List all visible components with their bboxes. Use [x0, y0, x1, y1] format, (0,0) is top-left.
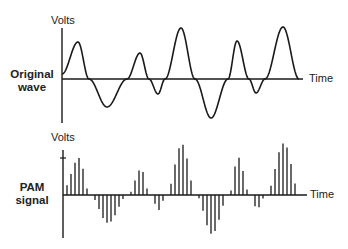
pam-sample-bars: [67, 143, 295, 233]
pam-y-axis-label: Volts: [51, 132, 75, 143]
original-wave-axes: [62, 28, 303, 123]
diagram-canvas: [0, 0, 348, 249]
original-wave-label: Original wave: [4, 68, 60, 94]
pam-signal-label-line1: PAM: [4, 181, 60, 194]
pam-signal-label-line2: signal: [4, 194, 60, 207]
original-wave-curve: [62, 27, 299, 118]
original-y-axis-label: Volts: [51, 15, 75, 26]
original-wave-label-line2: wave: [4, 81, 60, 94]
pam-diagram: Volts Time Original wave Volts Time PAM …: [0, 0, 348, 249]
pam-x-axis-label: Time: [310, 189, 334, 200]
original-wave-label-line1: Original: [4, 68, 60, 81]
pam-signal-label: PAM signal: [4, 181, 60, 207]
original-x-axis-label: Time: [309, 73, 333, 84]
